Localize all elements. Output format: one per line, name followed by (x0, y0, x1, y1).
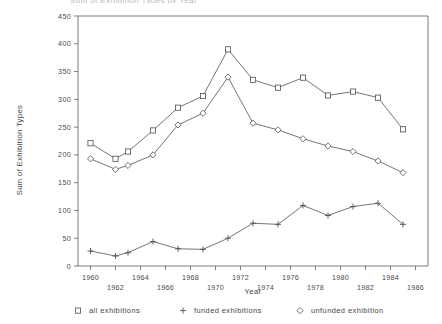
marker-square (225, 47, 230, 52)
series-polyline (91, 77, 404, 173)
x-tick-label: 1980 (332, 273, 349, 282)
marker-square (175, 105, 180, 110)
marker-square (75, 308, 80, 313)
marker-diamond (275, 127, 281, 133)
x-tick-label: 1968 (182, 273, 199, 282)
marker-square (350, 89, 355, 94)
y-tick-label: 150 (58, 178, 71, 187)
chart-container: Sum of Exhibition Types by Year 05010015… (0, 0, 442, 324)
x-tick-label: 1970 (207, 283, 224, 292)
x-tick-label: 1964 (132, 273, 149, 282)
series-diamond (87, 74, 406, 176)
data-series-group (87, 47, 406, 259)
marker-square (200, 93, 205, 98)
y-tick-label: 100 (58, 206, 71, 215)
legend-label: unfunded exhibition (311, 306, 384, 315)
x-tick-label: 1960 (82, 273, 99, 282)
marker-diamond (125, 162, 131, 168)
series-polyline (91, 203, 404, 256)
line-chart-plot: 050100150200250300350400450 196019621964… (0, 0, 442, 324)
legend-item-1[interactable]: funded exhibitions (180, 306, 262, 315)
y-tick-label: 400 (58, 39, 71, 48)
marker-square (150, 128, 155, 133)
marker-square (300, 75, 305, 80)
series-plus (88, 200, 407, 259)
y-tick-label: 250 (58, 123, 71, 132)
marker-square (325, 93, 330, 98)
x-tick-label: 1982 (357, 283, 374, 292)
marker-diamond (400, 170, 406, 176)
marker-square (113, 156, 118, 161)
y-tick-label: 200 (58, 150, 71, 159)
series-polyline (91, 49, 404, 158)
marker-diamond (375, 158, 381, 164)
legend-item-0[interactable]: all exhibitions (75, 306, 140, 315)
series-square (88, 47, 406, 162)
marker-diamond (87, 156, 93, 162)
x-tick-label: 1986 (407, 283, 424, 292)
marker-diamond (300, 136, 306, 142)
y-axis-title: Sum of Exhibition Types (15, 105, 24, 196)
marker-diamond (200, 110, 206, 116)
x-tick-label: 1976 (282, 273, 299, 282)
x-tick-label: 1984 (382, 273, 399, 282)
plot-frame (78, 16, 428, 266)
marker-diamond (350, 148, 356, 154)
legend-label: all exhibitions (89, 306, 140, 315)
y-axis-ticks: 050100150200250300350400450 (58, 12, 78, 271)
marker-square (375, 95, 380, 100)
marker-diamond (250, 120, 256, 126)
y-tick-label: 0 (67, 262, 71, 271)
marker-diamond (225, 74, 231, 80)
marker-square (400, 127, 405, 132)
chart-legend: all exhibitionsfunded exhibitionsunfunde… (75, 306, 383, 315)
marker-square (275, 85, 280, 90)
x-tick-label: 1972 (232, 273, 249, 282)
x-tick-label: 1978 (307, 283, 324, 292)
y-tick-label: 350 (58, 67, 71, 76)
x-tick-label: 1966 (157, 283, 174, 292)
y-tick-label: 300 (58, 95, 71, 104)
x-axis-title: Year (245, 287, 262, 296)
y-tick-label: 450 (58, 12, 71, 21)
marker-square (250, 77, 255, 82)
legend-item-2[interactable]: unfunded exhibition (297, 306, 384, 315)
y-tick-label: 50 (62, 234, 71, 243)
marker-diamond (325, 143, 331, 149)
marker-square (88, 141, 93, 146)
x-tick-label: 1962 (107, 283, 124, 292)
marker-diamond (112, 166, 118, 172)
legend-label: funded exhibitions (194, 306, 262, 315)
marker-square (125, 149, 130, 154)
marker-diamond (297, 308, 303, 314)
